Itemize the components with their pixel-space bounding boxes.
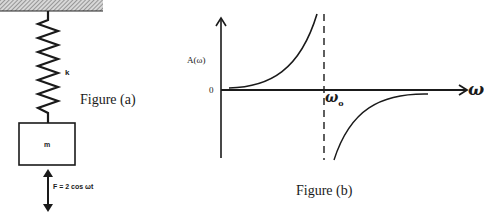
curve-above-resonance [334, 94, 428, 160]
force-arrow-up-icon [43, 169, 53, 177]
mass-label: m [44, 141, 50, 148]
force-label: F = 2 cos ωt [53, 183, 93, 190]
spring-constant-label: k [65, 69, 69, 77]
resonance-frequency-label: ωo [325, 90, 344, 107]
figure-a-caption: Figure (a) [80, 93, 136, 107]
origin-label: 0 [209, 86, 214, 95]
omega-symbol: ω [325, 89, 338, 105]
figure-b-caption: Figure (b) [296, 184, 352, 198]
spring [38, 11, 58, 123]
figure-b-plot [216, 14, 467, 160]
ceiling-support [0, 0, 103, 11]
y-axis-label: A(ω) [187, 56, 205, 65]
omega-subscript: o [338, 98, 343, 108]
x-axis-label: ω [468, 81, 484, 98]
force-arrow-down-icon [43, 204, 53, 212]
curve-below-resonance [229, 14, 317, 88]
